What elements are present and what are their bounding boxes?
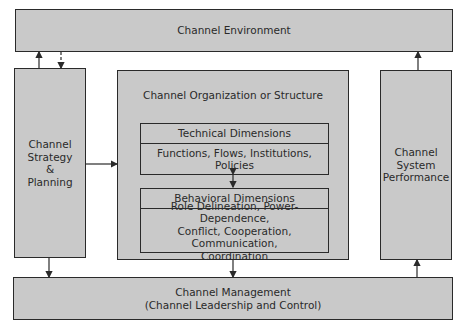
technical-dimensions-body: Functions, Flows, Institutions, Policies xyxy=(141,144,328,174)
channel-management-label: Channel Management (Channel Leadership a… xyxy=(145,286,322,311)
channel-performance-label: Channel System Performance xyxy=(383,146,450,184)
technical-dimensions-header: Technical Dimensions xyxy=(141,124,328,144)
channel-management-box: Channel Management (Channel Leadership a… xyxy=(13,277,453,320)
behavioral-dimensions-body: Role Delineation, Power-Dependence, Conf… xyxy=(141,209,328,253)
channel-organization-box: Channel Organization or Structure Techni… xyxy=(117,70,349,260)
channel-performance-box: Channel System Performance xyxy=(380,70,452,260)
channel-strategy-label: Channel Strategy & Planning xyxy=(27,138,72,188)
channel-strategy-box: Channel Strategy & Planning xyxy=(14,68,86,258)
channel-environment-label: Channel Environment xyxy=(177,24,291,37)
channel-organization-title: Channel Organization or Structure xyxy=(118,89,348,102)
channel-environment-box: Channel Environment xyxy=(15,9,453,52)
behavioral-dimensions-box: Behavioral Dimensions Role Delineation, … xyxy=(140,188,329,253)
technical-dimensions-box: Technical Dimensions Functions, Flows, I… xyxy=(140,123,329,175)
